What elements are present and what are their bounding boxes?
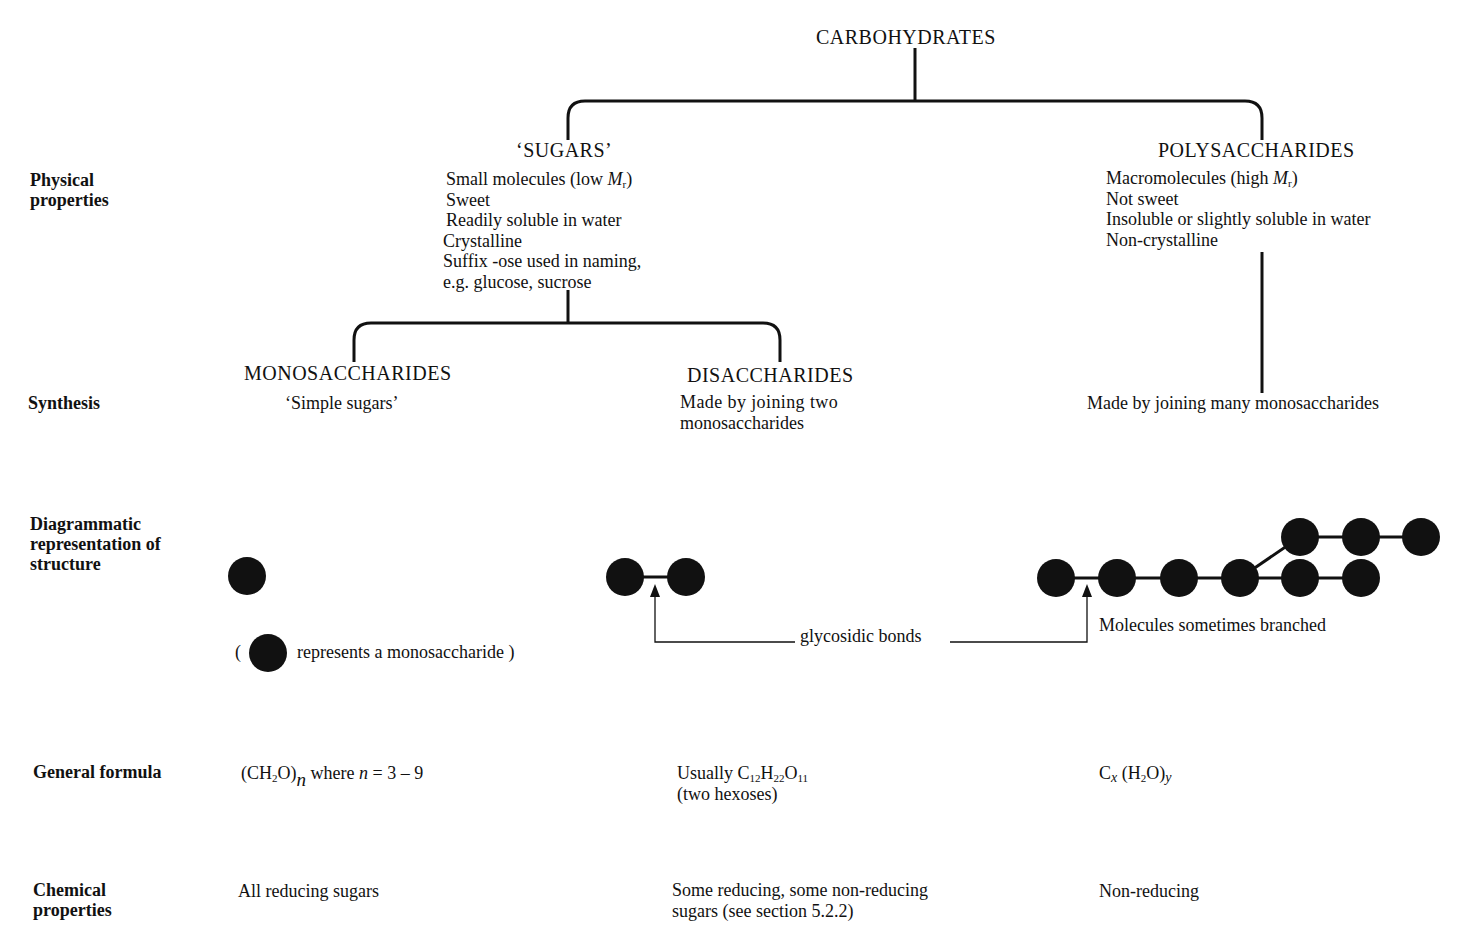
disaccharides-formula: Usually C12H22O11 (two hexoses): [677, 763, 808, 804]
disaccharides-heading: DISACCHARIDES: [687, 364, 854, 387]
sugars-prop-suffix: Suffix -ose used in naming,: [443, 251, 641, 272]
disaccharides-synthesis-line1: Made by joining two: [680, 392, 838, 413]
legend-open-paren: (: [235, 642, 241, 663]
monosaccharides-chemical: All reducing sugars: [238, 881, 379, 902]
sugars-prop-examples: e.g. glucose, sucrose: [443, 272, 641, 293]
disaccharides-chemical: Some reducing, some non-reducing sugars …: [672, 880, 928, 921]
disaccharides-chemical-line1: Some reducing, some non-reducing: [672, 880, 928, 901]
row-label-general-formula: General formula: [33, 762, 161, 782]
sugars-prop-crystalline: Crystalline: [443, 231, 641, 252]
poly-prop-crystalline: Non-crystalline: [1106, 230, 1370, 251]
monosaccharides-synthesis: ‘Simple sugars’: [285, 393, 398, 414]
disaccharides-synthesis: Made by joining two monosaccharides: [680, 392, 838, 433]
polysaccharides-synthesis: Made by joining many monosaccharides: [1087, 393, 1379, 414]
disaccharides-synthesis-line2: monosaccharides: [680, 413, 838, 434]
sugars-heading: ‘SUGARS’: [516, 139, 612, 162]
polysaccharides-physical-properties: Macromolecules (high Mr) Not sweet Insol…: [1106, 168, 1370, 250]
sugars-prop-sweet: Sweet: [443, 190, 641, 211]
disaccharides-formula-line2: (two hexoses): [677, 784, 808, 805]
row-label-physical-properties: Physical properties: [30, 170, 150, 210]
poly-prop-solubility: Insoluble or slightly soluble in water: [1106, 209, 1370, 230]
row-label-synthesis: Synthesis: [28, 393, 100, 413]
legend-monosaccharide-icon: [249, 634, 287, 672]
row-label-chemical-properties: Chemical properties: [33, 880, 143, 920]
polysaccharides-chemical: Non-reducing: [1099, 881, 1199, 902]
poly-prop-sweet: Not sweet: [1106, 189, 1370, 210]
root-title: CARBOHYDRATES: [816, 26, 996, 49]
sugars-physical-properties: Small molecules (low Mr) Sweet Readily s…: [443, 169, 641, 292]
row-label-diagrammatic-structure: Diagrammatic representation of structure: [30, 514, 170, 574]
sugars-prop-molecule-size: Small molecules (low Mr): [443, 169, 641, 190]
polysaccharide-structure: [1037, 518, 1440, 597]
monosaccharides-heading: MONOSACCHARIDES: [244, 362, 452, 385]
arrowheads: [650, 584, 1092, 597]
poly-prop-molecule-size: Macromolecules (high Mr): [1106, 168, 1370, 189]
glycosidic-bonds-label: glycosidic bonds: [800, 626, 922, 647]
polysaccharides-heading: POLYSACCHARIDES: [1158, 139, 1355, 162]
sugars-prop-solubility: Readily soluble in water: [443, 210, 641, 231]
disaccharides-chemical-line2: sugars (see section 5.2.2): [672, 901, 928, 922]
disaccharides-formula-line1: Usually C12H22O11: [677, 763, 808, 784]
monosaccharides-formula: (CH2O)n where n = 3 – 9: [241, 763, 423, 784]
legend-text: represents a monosaccharide ): [297, 642, 514, 663]
monosaccharide-structure: [228, 557, 266, 595]
polysaccharides-formula: Cx (H2O)y: [1099, 763, 1171, 784]
polysaccharides-branch-note: Molecules sometimes branched: [1099, 615, 1326, 636]
